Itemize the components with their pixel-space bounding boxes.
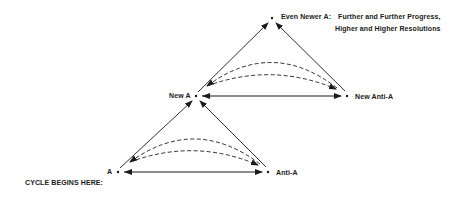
lower-triangle xyxy=(120,101,266,175)
dashed-arc-inner-upper xyxy=(207,75,336,89)
node-new-a-dot xyxy=(195,95,197,97)
dashed-arc-inner xyxy=(130,151,258,165)
dashed-arc-outer xyxy=(130,139,260,164)
anti-a-to-new-a-arrow xyxy=(200,101,266,167)
dashed-arc-outer-upper xyxy=(207,62,337,88)
new-a-to-even-newer-arrow xyxy=(198,23,268,92)
node-new-anti-a-dot xyxy=(346,95,348,97)
node-anti-a-label: Anti-A xyxy=(276,168,298,177)
upper-triangle xyxy=(198,23,345,99)
new-anti-a-to-even-newer-arrow xyxy=(276,23,345,91)
node-new-a-label: New A xyxy=(169,91,191,100)
node-anti-a-dot xyxy=(267,171,269,173)
node-a-label: A xyxy=(107,167,112,176)
cycle-start-label: CYCLE BEGINS HERE: xyxy=(25,178,103,187)
node-a-dot xyxy=(117,171,119,173)
annotation-line-1: Further and Further Progress, xyxy=(338,12,440,21)
a-to-new-a-arrow xyxy=(120,101,192,168)
node-even-newer-a-dot xyxy=(271,17,273,19)
node-new-anti-a-label: New Anti-A xyxy=(355,92,393,101)
annotation-line-2: Higher and Higher Resolutions xyxy=(335,24,441,33)
node-even-newer-a-label: Even Newer A: xyxy=(281,12,331,21)
